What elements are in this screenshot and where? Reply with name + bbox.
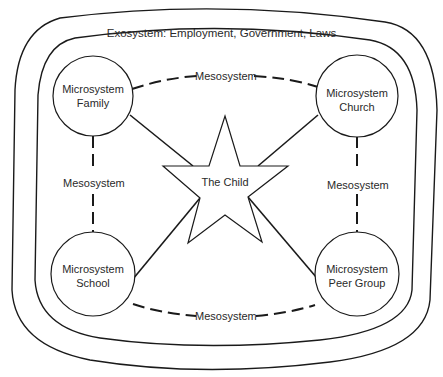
mesosystem-label-bottom: Mesosystem — [195, 309, 255, 323]
microsystem-school-line2: School — [48, 276, 138, 290]
microsystem-church-line1: Microsystem — [312, 86, 402, 100]
microsystem-peer-group-line1: Microsystem — [312, 262, 402, 276]
exosystem-label: Exosystem: Employment, Government, Laws — [0, 26, 443, 40]
mesosystem-label-top: Mesosystem — [195, 69, 255, 83]
microsystem-church-line2: Church — [312, 100, 402, 114]
mesosystem-label-right: Mesosystem — [327, 178, 387, 192]
microsystem-peer-group-line2: Peer Group — [312, 276, 402, 290]
microsystem-family-label: Microsystem Family — [48, 82, 138, 110]
microsystem-family-line1: Microsystem — [48, 82, 138, 96]
microsystem-school-line1: Microsystem — [48, 262, 138, 276]
microsystem-school-label: Microsystem School — [48, 262, 138, 290]
microsystem-peer-group-label: Microsystem Peer Group — [312, 262, 402, 290]
microsystem-church-label: Microsystem Church — [312, 86, 402, 114]
microsystem-family-line2: Family — [48, 96, 138, 110]
child-label: The Child — [195, 175, 255, 189]
mesosystem-label-left: Mesosystem — [63, 176, 123, 190]
